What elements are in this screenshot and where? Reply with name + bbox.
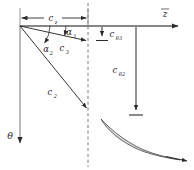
c2-subscript: 2 (53, 93, 57, 99)
ctheta2-subscript: θ2 (119, 71, 125, 77)
c3-subscript: 3 (66, 49, 70, 55)
angle-alpha3-label: α 3 (66, 27, 77, 39)
blade-outflow-arrow (166, 157, 187, 162)
axial-dimension-subscript: z (54, 19, 58, 25)
diagram-canvas: z θ c z c 3 c 2 α 3 α 2 c (0, 0, 194, 170)
alpha3-symbol: α (66, 27, 72, 37)
alpha3-subscript: 3 (73, 33, 77, 39)
alpha2-subscript: 2 (49, 50, 53, 56)
blade-vane-profile (101, 119, 180, 160)
velocity-vector-c3-label: c 3 (60, 43, 70, 55)
velocity-triangle-figure: z θ c z c 3 c 2 α 3 α 2 c (0, 0, 194, 170)
angle-alpha2-label: α 2 (43, 44, 53, 56)
velocity-vector-c2-label: c 2 (48, 87, 58, 99)
ctheta3-subscript: θ3 (116, 35, 123, 41)
alpha2-symbol: α (43, 44, 49, 54)
ctheta2-label: c θ2 (113, 65, 126, 77)
c3-symbol: c (60, 43, 65, 53)
blade-vane-profile-group (101, 119, 187, 161)
axial-dimension-label: c z (49, 13, 58, 25)
ctheta2-symbol: c (113, 65, 118, 75)
tangential-component-ctheta2-group (129, 27, 143, 115)
ctheta3-symbol: c (110, 29, 115, 39)
c2-symbol: c (48, 87, 53, 97)
theta-axis-label: θ (7, 130, 13, 141)
angle-arc-alpha2 (45, 26, 51, 43)
axial-dimension-symbol: c (49, 13, 54, 23)
z-axis-label: z (162, 9, 168, 19)
tangential-component-ctheta3-group (96, 27, 108, 41)
angle-arc-group (45, 26, 67, 43)
ctheta3-label: c θ3 (110, 29, 123, 41)
